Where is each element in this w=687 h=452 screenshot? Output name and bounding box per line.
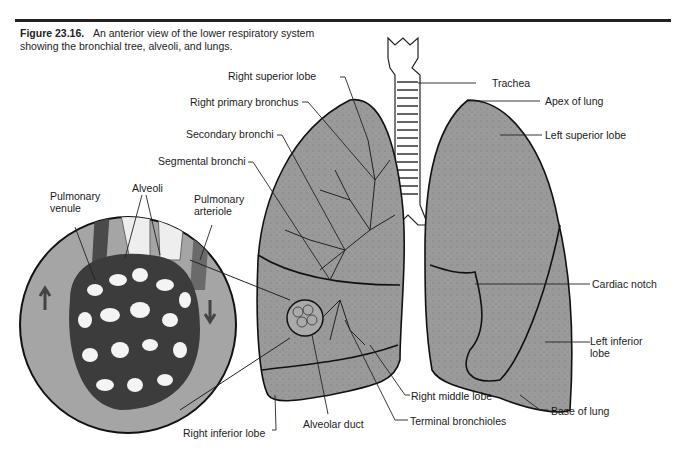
label-cardiac-notch: Cardiac notch <box>592 278 657 290</box>
label-right-superior-lobe: Right superior lobe <box>228 70 316 82</box>
left-lung <box>425 100 572 412</box>
label-alveoli: Alveoli <box>132 182 163 194</box>
respiratory-diagram <box>0 0 687 452</box>
label-left-superior-lobe: Left superior lobe <box>545 129 626 141</box>
label-trachea: Trachea <box>492 77 530 89</box>
label-secondary-bronchi: Secondary bronchi <box>186 128 274 140</box>
alveoli-inset <box>20 210 290 433</box>
label-pulmonary-arteriole: Pulmonary arteriole <box>194 193 254 217</box>
label-apex-of-lung: Apex of lung <box>545 95 603 107</box>
right-lung <box>257 100 404 401</box>
label-pulmonary-venule: Pulmonary venule <box>50 190 110 214</box>
label-alveolar-duct: Alveolar duct <box>303 418 364 430</box>
label-terminal-bronchioles: Terminal bronchioles <box>410 415 506 427</box>
label-segmental-bronchi: Segmental bronchi <box>158 155 246 167</box>
label-right-primary-bronchus: Right primary bronchus <box>190 96 299 108</box>
label-right-inferior-lobe: Right inferior lobe <box>183 427 265 439</box>
label-right-middle-lobe: Right middle lobe <box>411 390 492 402</box>
label-base-of-lung: Base of lung <box>551 405 609 417</box>
label-left-inferior-lobe: Left inferior lobe <box>590 335 650 359</box>
